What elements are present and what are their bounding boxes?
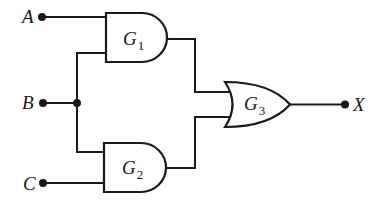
output-x: X (290, 94, 366, 115)
input-c-label: C (23, 173, 36, 194)
wire-b-to-g2 (77, 103, 104, 152)
wire-b-to-g1 (77, 53, 106, 103)
gate-g2-and: G2 (104, 143, 166, 192)
input-c: C (23, 173, 104, 194)
input-b: B (22, 53, 106, 152)
input-a-label: A (20, 6, 34, 27)
gate-g1-and: G1 (106, 13, 167, 62)
wire-g1-to-g3 (167, 39, 229, 92)
output-x-terminal (341, 101, 349, 109)
gate-g3-or: G3 (225, 82, 290, 127)
input-b-label: B (22, 92, 34, 113)
output-x-label: X (352, 94, 366, 115)
wire-g2-to-g3 (166, 117, 229, 168)
input-a: A (20, 6, 106, 27)
logic-circuit-diagram: A B C G1 G2 G3 X (0, 0, 391, 210)
